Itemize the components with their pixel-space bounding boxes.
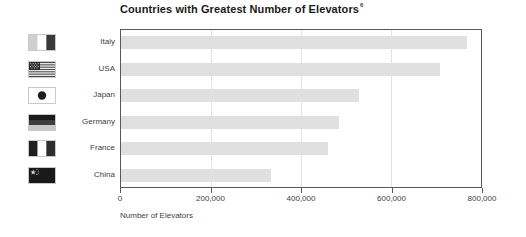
chart-title-text: Countries with Greatest Number of Elevat… xyxy=(120,3,359,15)
x-tick-label-600000: 600,000 xyxy=(377,194,406,203)
x-axis-title: Number of Elevators xyxy=(120,211,193,220)
bar-italy xyxy=(121,36,467,49)
gridline-200000 xyxy=(211,30,212,187)
category-label-italy: Italy xyxy=(55,37,115,47)
gridline-400000 xyxy=(301,30,302,187)
x-tick-mark-400000 xyxy=(301,188,302,193)
bar-france xyxy=(121,142,328,155)
flag-italy-icon xyxy=(28,34,56,51)
flag-germany-icon xyxy=(28,114,56,131)
flag-usa-icon xyxy=(28,61,56,78)
category-label-china: China xyxy=(55,170,115,180)
x-tick-label-200000: 200,000 xyxy=(196,194,225,203)
flag-france-icon xyxy=(28,140,56,157)
category-axis-labels: Italy USA Japan Germany France China xyxy=(55,29,115,188)
bar-japan xyxy=(121,89,359,102)
x-tick-mark-800000 xyxy=(482,188,483,193)
flag-china-icon xyxy=(28,167,56,184)
x-tick-label-0: 0 xyxy=(118,194,122,203)
gridline-600000 xyxy=(391,30,392,187)
x-tick-mark-0 xyxy=(120,188,121,193)
category-label-france: France xyxy=(55,143,115,153)
category-label-usa: USA xyxy=(55,64,115,74)
category-label-germany: Germany xyxy=(55,117,115,127)
x-tick-mark-600000 xyxy=(392,188,393,193)
x-tick-label-400000: 400,000 xyxy=(287,194,316,203)
bar-usa xyxy=(121,63,440,76)
chart-title: Countries with Greatest Number of Elevat… xyxy=(120,3,362,15)
bar-china xyxy=(121,169,271,182)
elevators-bar-chart: Countries with Greatest Number of Elevat… xyxy=(0,0,526,237)
title-footnote-marker: 6 xyxy=(360,2,363,8)
flag-japan-icon xyxy=(28,87,56,104)
x-tick-label-800000: 800,000 xyxy=(468,194,497,203)
category-label-japan: Japan xyxy=(55,90,115,100)
x-tick-mark-200000 xyxy=(211,188,212,193)
bar-germany xyxy=(121,116,339,129)
flag-column xyxy=(28,29,58,188)
plot-area xyxy=(120,29,482,188)
